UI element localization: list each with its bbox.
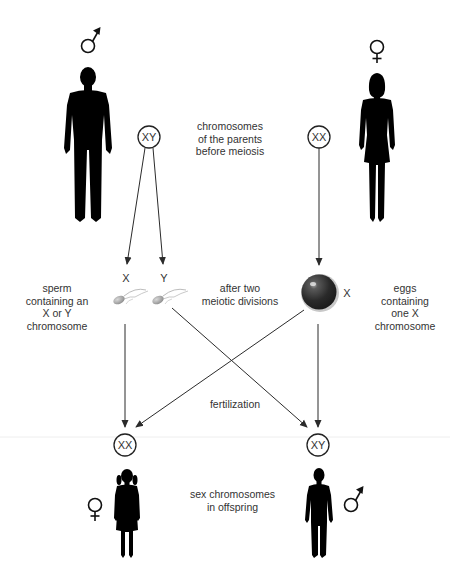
male-symbol-icon (82, 27, 101, 53)
fertilization-label: fertilization (190, 398, 280, 411)
arrow-father-to-x-sperm (127, 148, 145, 264)
male-symbol-icon (345, 486, 364, 512)
egg-icon (301, 274, 339, 312)
sex-determination-diagram: XY XX XX XY chromosomes of the parents b… (0, 0, 450, 580)
female-symbol-icon (371, 41, 384, 64)
daughter-silhouette (114, 469, 140, 558)
father-silhouette (64, 67, 112, 222)
son-silhouette (305, 468, 333, 558)
parents-caption: chromosomes of the parents before meiosi… (180, 120, 280, 158)
mother-chromosomes-label: XX (307, 131, 331, 143)
son-chromosomes-label: XY (306, 439, 330, 451)
mother-silhouette (359, 73, 395, 222)
x-sperm-icon (112, 289, 148, 306)
father-chromosomes-label: XY (137, 131, 161, 143)
meiosis-caption: after two meiotic divisions (190, 282, 290, 307)
arrow-father-to-y-sperm (153, 148, 163, 264)
y-sperm-icon (151, 289, 188, 306)
egg-label: X (339, 287, 355, 299)
offspring-caption: sex chromosomes in offspring (180, 488, 285, 513)
egg-caption: eggs containing one X chromosome (365, 282, 445, 332)
x-sperm-label: X (118, 272, 134, 284)
female-symbol-icon (89, 499, 102, 522)
daughter-chromosomes-label: XX (113, 439, 137, 451)
sperm-caption: sperm containing an X or Y chromosome (12, 282, 102, 332)
y-sperm-label: Y (156, 272, 172, 284)
